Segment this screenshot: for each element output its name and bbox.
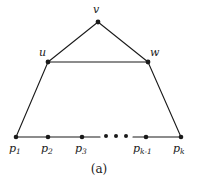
edge-u-p1: [16, 62, 48, 137]
subscript-2: 2: [48, 147, 53, 156]
vertex-label-p3: p3: [75, 143, 87, 156]
figure-caption: (a): [0, 163, 198, 175]
edge-w-pk: [148, 62, 181, 137]
vertex-p3: [80, 135, 85, 140]
vertex-p2: [46, 135, 51, 140]
subscript-k-minus-1: k-1: [140, 147, 152, 156]
edge-v-u: [48, 22, 98, 62]
ellipsis-dot: [104, 134, 108, 138]
ellipsis-icon: [104, 134, 128, 138]
edges-group: [16, 22, 181, 137]
ellipsis-dot: [114, 134, 118, 138]
vertex-p1: [14, 135, 19, 140]
vertex-label-u: u: [39, 47, 46, 58]
vertex-u: [46, 60, 51, 65]
subscript-k: k: [180, 147, 185, 156]
vertex-label-w: w: [150, 47, 159, 58]
vertex-label-v: v: [93, 4, 99, 15]
vertex-label-pk: pk: [173, 143, 185, 156]
vertex-w: [146, 60, 151, 65]
vertices-group: [14, 20, 184, 140]
subscript-1: 1: [16, 147, 21, 156]
figure-container: v u w p1 p2 p3 pk-1 pk (a): [0, 0, 198, 188]
subscript-3: 3: [82, 147, 87, 156]
vertex-label-p2: p2: [41, 143, 53, 156]
graph-drawing: [0, 0, 198, 188]
vertex-pk: [179, 135, 184, 140]
vertex-label-p1: p1: [9, 143, 21, 156]
edge-v-w: [98, 22, 148, 62]
vertex-label-pk-1: pk-1: [133, 143, 152, 156]
vertex-v: [96, 20, 101, 25]
vertex-pk-1: [144, 135, 149, 140]
ellipsis-dot: [124, 134, 128, 138]
